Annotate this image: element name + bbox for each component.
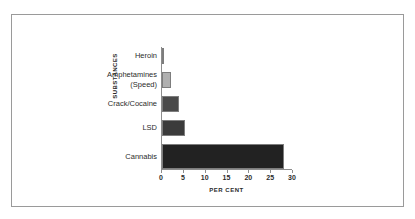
category-label-cannabis-line1: Cannabis bbox=[37, 152, 157, 162]
bar-crack-cocaine bbox=[162, 96, 179, 112]
bar-cannabis bbox=[162, 144, 284, 169]
x-axis-title: PER CENT bbox=[161, 187, 292, 193]
category-label-lsd-line1: LSD bbox=[37, 123, 157, 133]
x-axis-tick-30 bbox=[292, 170, 293, 173]
category-label-cannabis: Cannabis bbox=[37, 152, 157, 162]
bar-amphetamines bbox=[162, 72, 171, 88]
category-label-heroin: Heroin bbox=[37, 51, 157, 61]
x-axis-tick-20 bbox=[248, 170, 249, 173]
y-axis-title: SUBSTANCES bbox=[112, 41, 118, 111]
x-axis-tick-label-15: 15 bbox=[216, 174, 238, 181]
x-axis-tick-25 bbox=[270, 170, 271, 173]
category-label-crack-cocaine-line1: Crack/Cocaine bbox=[37, 99, 157, 109]
category-label-crack-cocaine: Crack/Cocaine bbox=[37, 99, 157, 109]
category-label-heroin-line1: Heroin bbox=[37, 51, 157, 61]
x-axis-tick-15 bbox=[227, 170, 228, 173]
x-axis-tick-label-20: 20 bbox=[237, 174, 259, 181]
bar-lsd bbox=[162, 120, 185, 136]
x-axis-tick-label-5: 5 bbox=[172, 174, 194, 181]
category-label-amphetamines-line1: Amphetamines bbox=[37, 70, 157, 80]
x-axis-tick-label-0: 0 bbox=[150, 174, 172, 181]
category-label-amphetamines: Amphetamines (Speed) bbox=[37, 70, 157, 89]
x-axis-tick-label-25: 25 bbox=[259, 174, 281, 181]
category-label-lsd: LSD bbox=[37, 123, 157, 133]
x-axis-tick-0 bbox=[161, 170, 162, 173]
x-axis-tick-10 bbox=[205, 170, 206, 173]
bar-chart-plot-area: Heroin Amphetamines (Speed) Crack/Cocain… bbox=[12, 15, 405, 208]
x-axis-tick-label-10: 10 bbox=[194, 174, 216, 181]
bar-heroin bbox=[162, 48, 164, 64]
x-axis-tick-5 bbox=[183, 170, 184, 173]
chart-figure-frame: Heroin Amphetamines (Speed) Crack/Cocain… bbox=[11, 14, 404, 207]
x-axis-tick-label-30: 30 bbox=[281, 174, 303, 181]
category-label-amphetamines-line2: (Speed) bbox=[37, 80, 157, 90]
